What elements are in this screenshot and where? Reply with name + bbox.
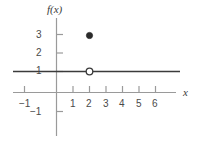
x-tick-label: −1 [19,99,30,109]
closed-point-marker [86,32,92,38]
x-tick-label: 5 [136,99,142,109]
y-tick-label: 2 [36,48,42,58]
plot-canvas [0,0,198,143]
x-tick-label: 2 [86,99,92,109]
y-tick-label: 3 [36,30,42,40]
y-axis-label: f(x) [47,4,62,15]
x-tick-label: 1 [70,99,76,109]
y-tick-label: 1 [36,66,42,76]
open-point-marker [86,68,93,75]
x-tick-label: 6 [152,99,158,109]
y-tick-label: −1 [30,107,41,117]
function-graph-figure: f(x) x 3 2 1 −1 −1 1 2 3 4 5 6 [0,0,198,143]
x-tick-label: 4 [119,99,125,109]
x-axis-label: x [183,87,188,98]
x-tick-label: 3 [103,99,109,109]
